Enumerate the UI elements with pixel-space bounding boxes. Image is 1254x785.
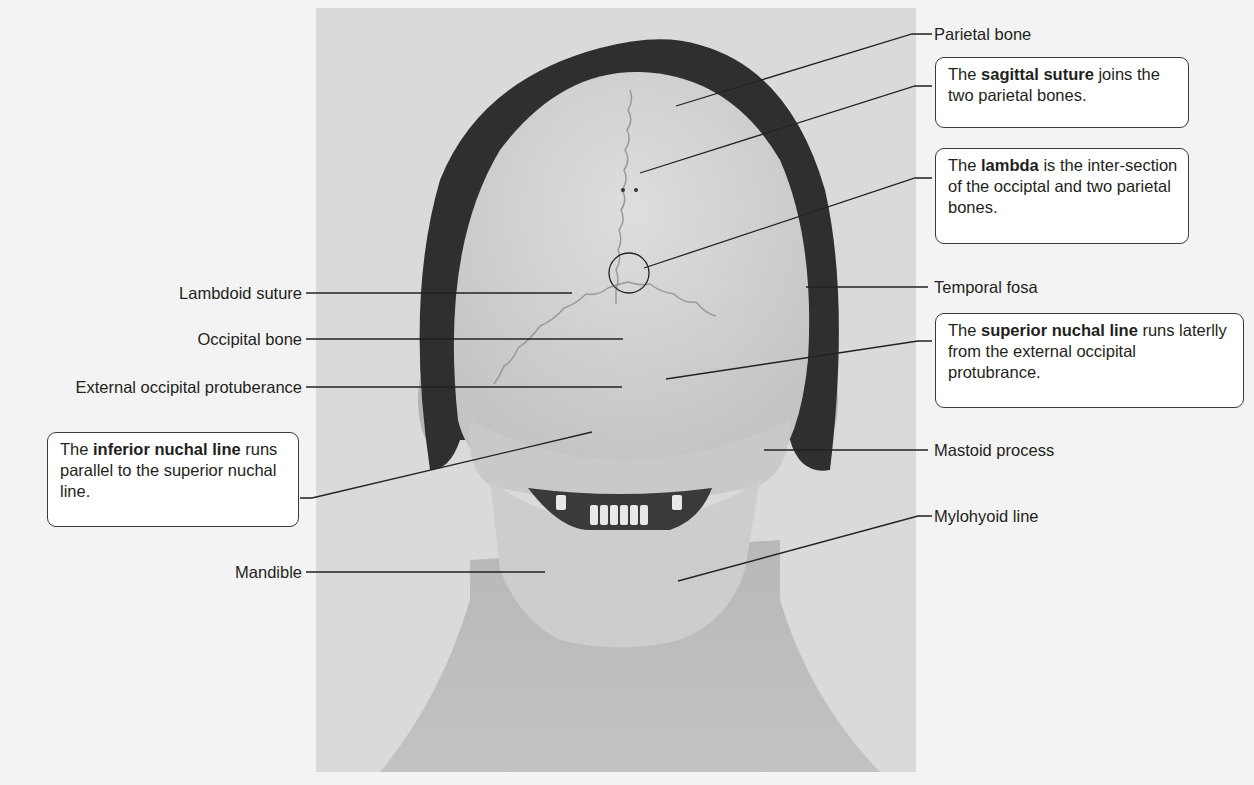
term-lambda: lambda: [981, 156, 1039, 174]
callout-sagittal-suture: The sagittal suture joins the two pariet…: [935, 57, 1189, 128]
label-mylohyoid-line: Mylohyoid line: [934, 506, 1039, 526]
head-photo: [316, 8, 916, 772]
label-external-occipital-protuberance: External occipital protuberance: [75, 377, 302, 397]
label-temporal-fosa: Temporal fosa: [934, 277, 1038, 297]
callout-inferior-nuchal-line: The inferior nuchal line runs parallel t…: [47, 432, 299, 527]
term-superior-nuchal-line: superior nuchal line: [981, 321, 1138, 339]
label-parietal-bone: Parietal bone: [934, 24, 1031, 44]
label-lambdoid-suture: Lambdoid suture: [179, 283, 302, 303]
callout-lambda: The lambda is the inter-section of the o…: [935, 148, 1189, 244]
head-illustration: [316, 8, 916, 772]
callout-superior-nuchal-line: The superior nuchal line runs laterlly f…: [935, 313, 1244, 408]
label-mastoid-process: Mastoid process: [934, 440, 1054, 460]
label-occipital-bone: Occipital bone: [197, 329, 302, 349]
term-sagittal-suture: sagittal suture: [981, 65, 1094, 83]
label-mandible: Mandible: [235, 562, 302, 582]
term-inferior-nuchal-line: inferior nuchal line: [93, 440, 241, 458]
